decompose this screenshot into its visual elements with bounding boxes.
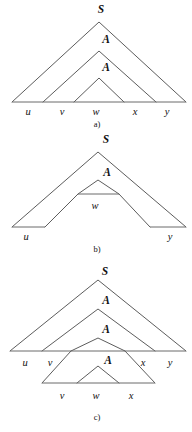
b-left-inner-edge xyxy=(45,194,78,227)
c-terminal-x-lower: x xyxy=(128,390,134,401)
parse-tree-svg: S A A u v w x y a) S A u w y b) S A A A … xyxy=(0,0,192,432)
c-terminal-v-lower: v xyxy=(60,390,65,401)
a-caption: a) xyxy=(94,119,101,129)
b-label-S: S xyxy=(103,133,109,145)
b-right-inner-edge xyxy=(119,194,150,227)
b-terminal-u: u xyxy=(23,231,28,242)
pumping-lemma-figure: S A A u v w x y a) S A u w y b) S A A A … xyxy=(0,0,192,432)
b-caption: b) xyxy=(93,244,100,254)
c-terminal-u: u xyxy=(22,357,27,368)
a-terminal-v: v xyxy=(60,106,65,117)
c-third-triangle-A xyxy=(71,338,125,351)
c-terminal-v-upper: v xyxy=(48,357,53,368)
panel-c xyxy=(10,280,186,383)
panel-a xyxy=(12,22,186,102)
b-terminal-w: w xyxy=(91,200,98,211)
a-inner-triangle-A xyxy=(74,78,124,102)
c-label-A-2: A xyxy=(101,323,110,335)
a-terminal-w: w xyxy=(92,106,99,117)
c-left-extension xyxy=(42,351,71,383)
a-terminal-x: x xyxy=(132,106,138,117)
a-label-S: S xyxy=(98,3,104,15)
a-outer-triangle-S xyxy=(12,22,186,102)
c-label-S: S xyxy=(102,265,108,277)
c-outer-triangle-S xyxy=(10,280,186,351)
a-terminal-u: u xyxy=(25,106,30,117)
b-outer-triangle-S xyxy=(12,152,186,227)
c-terminal-y: y xyxy=(167,357,173,368)
b-label-A: A xyxy=(102,166,111,178)
c-terminal-w-lower: w xyxy=(92,390,99,401)
a-label-A-2: A xyxy=(101,61,110,73)
c-terminal-x-upper: x xyxy=(140,357,146,368)
c-label-A-1: A xyxy=(101,294,110,306)
panel-b xyxy=(12,152,186,227)
a-label-A-1: A xyxy=(101,33,110,45)
c-fourth-triangle-A xyxy=(77,366,119,383)
b-terminal-y: y xyxy=(167,231,173,242)
c-second-triangle-A xyxy=(42,309,155,351)
a-terminal-y: y xyxy=(164,106,170,117)
b-inner-triangle-A xyxy=(78,180,119,194)
c-caption: c) xyxy=(94,412,101,422)
c-label-A-3: A xyxy=(103,354,112,366)
